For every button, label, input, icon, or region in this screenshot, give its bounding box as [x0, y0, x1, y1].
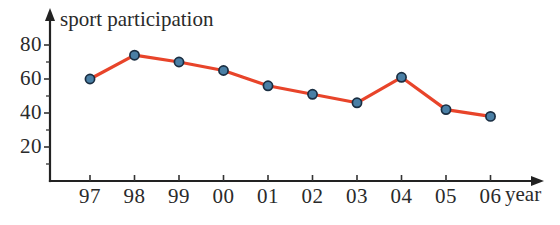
x-axis-tick-label: 06	[469, 186, 513, 207]
x-axis-tick-label: 01	[246, 186, 290, 207]
y-axis-tick-label: 80	[8, 34, 42, 55]
data-point-markers	[85, 51, 495, 121]
data-point-marker	[397, 73, 406, 82]
data-point-marker	[263, 81, 272, 90]
data-series-line	[90, 55, 491, 116]
x-axis-tick-label: 97	[68, 186, 112, 207]
data-point-marker	[85, 74, 94, 83]
y-axis-arrowhead	[45, 8, 55, 21]
x-axis-tick-label: 98	[113, 186, 157, 207]
data-point-marker	[308, 90, 317, 99]
data-point-marker	[486, 112, 495, 121]
x-axis-tick-label: 05	[424, 186, 468, 207]
x-axis-tick-label: 99	[157, 186, 201, 207]
data-point-marker	[174, 57, 183, 66]
y-axis-tick-label: 40	[8, 102, 42, 123]
data-point-marker	[441, 105, 450, 114]
y-axis-tick-label: 20	[8, 136, 42, 157]
data-point-marker	[352, 98, 361, 107]
x-axis-arrowhead	[531, 176, 544, 186]
x-axis-tick-label: 02	[291, 186, 335, 207]
y-axis-tick-label: 60	[8, 68, 42, 89]
x-axis-tick-label: 03	[335, 186, 379, 207]
y-axis-group	[45, 8, 55, 181]
sport-participation-line-chart: sport participation year 20406080 979899…	[0, 0, 560, 225]
data-point-marker	[130, 51, 139, 60]
x-axis-tick-label: 04	[380, 186, 424, 207]
data-point-marker	[219, 66, 228, 75]
x-axis-tick-label: 00	[202, 186, 246, 207]
